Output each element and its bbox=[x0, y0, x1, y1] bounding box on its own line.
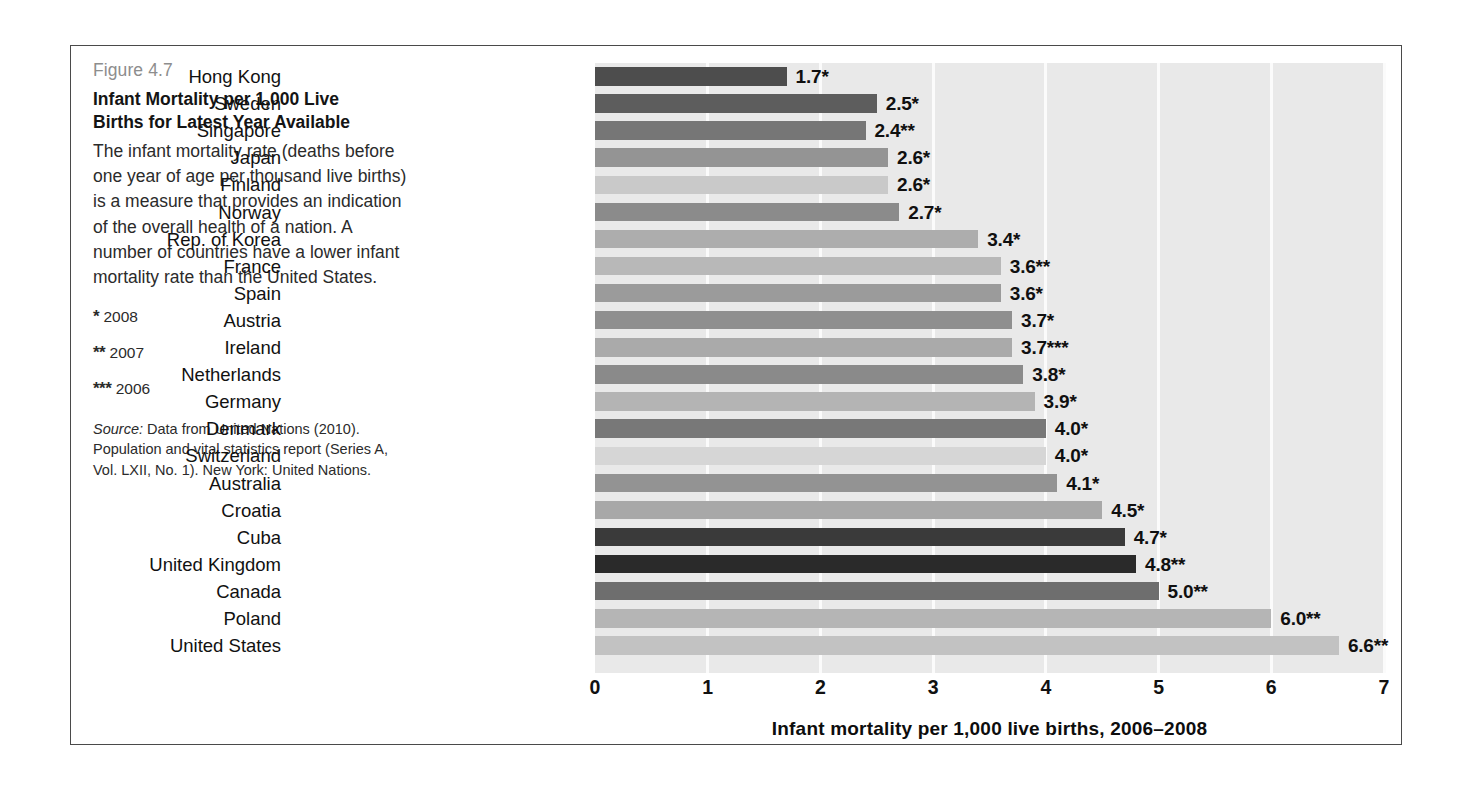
x-axis-title: Infant mortality per 1,000 live births, … bbox=[595, 718, 1384, 740]
bar-value-label: 1.7* bbox=[796, 63, 829, 90]
x-tick-label-0: 0 bbox=[590, 676, 601, 699]
bar-row[interactable]: Poland6.0** bbox=[423, 605, 1401, 632]
bar-row[interactable]: Sweden2.5* bbox=[423, 90, 1401, 117]
category-label: Spain bbox=[234, 280, 281, 307]
bar[interactable] bbox=[595, 203, 899, 221]
figure-frame: Figure 4.7 Infant Mortality per 1,000 Li… bbox=[70, 45, 1402, 745]
bar[interactable] bbox=[595, 257, 1001, 275]
bar[interactable] bbox=[595, 555, 1136, 573]
bar[interactable] bbox=[595, 392, 1035, 410]
bar-value-label: 4.5* bbox=[1111, 497, 1144, 524]
bar-row[interactable]: Croatia4.5* bbox=[423, 497, 1401, 524]
bar-value-label: 3.6** bbox=[1010, 253, 1050, 280]
bar-row[interactable]: Australia4.1* bbox=[423, 470, 1401, 497]
bar[interactable] bbox=[595, 501, 1102, 519]
bar-value-label: 5.0** bbox=[1168, 578, 1208, 605]
bar[interactable] bbox=[595, 636, 1339, 654]
bar-row[interactable]: Rep. of Korea3.4* bbox=[423, 226, 1401, 253]
bar-value-label: 4.0* bbox=[1055, 442, 1088, 469]
bar-value-label: 6.0** bbox=[1280, 605, 1320, 632]
bar-row[interactable]: Finland2.6* bbox=[423, 171, 1401, 198]
bar-value-label: 3.8* bbox=[1032, 361, 1065, 388]
bar-value-label: 4.8** bbox=[1145, 551, 1185, 578]
bar-row[interactable]: United Kingdom4.8** bbox=[423, 551, 1401, 578]
bar-row[interactable]: Norway2.7* bbox=[423, 199, 1401, 226]
bar[interactable] bbox=[595, 528, 1125, 546]
bar-row[interactable]: Cuba4.7* bbox=[423, 524, 1401, 551]
category-label: Sweden bbox=[214, 90, 281, 117]
category-label: Singapore bbox=[197, 117, 281, 144]
bar[interactable] bbox=[595, 311, 1012, 329]
category-label: Netherlands bbox=[181, 361, 281, 388]
category-label: United Kingdom bbox=[149, 551, 281, 578]
bar-row[interactable]: Ireland3.7*** bbox=[423, 334, 1401, 361]
bar-value-label: 4.1* bbox=[1066, 470, 1099, 497]
category-label: Rep. of Korea bbox=[167, 226, 281, 253]
bar[interactable] bbox=[595, 582, 1159, 600]
bar[interactable] bbox=[595, 609, 1271, 627]
category-label: United States bbox=[170, 632, 281, 659]
bar[interactable] bbox=[595, 94, 877, 112]
bar-value-label: 4.7* bbox=[1134, 524, 1167, 551]
bar-chart: Hong Kong1.7*Sweden2.5*Singapore2.4**Jap… bbox=[423, 46, 1401, 744]
bar-value-label: 2.5* bbox=[886, 90, 919, 117]
x-tick-label-1: 1 bbox=[702, 676, 713, 699]
bar[interactable] bbox=[595, 474, 1057, 492]
category-label: Australia bbox=[209, 470, 281, 497]
category-label: Switzerland bbox=[185, 442, 281, 469]
category-label: Hong Kong bbox=[188, 63, 281, 90]
bar-value-label: 2.7* bbox=[908, 199, 941, 226]
bar[interactable] bbox=[595, 176, 888, 194]
category-label: France bbox=[223, 253, 281, 280]
bar-row[interactable]: Japan2.6* bbox=[423, 144, 1401, 171]
bar[interactable] bbox=[595, 148, 888, 166]
bar[interactable] bbox=[595, 447, 1046, 465]
bar[interactable] bbox=[595, 365, 1023, 383]
footnote-marker-double-star: ** bbox=[93, 343, 105, 362]
bar-row[interactable]: United States6.6** bbox=[423, 632, 1401, 659]
bar-row[interactable]: Germany3.9* bbox=[423, 388, 1401, 415]
bar[interactable] bbox=[595, 338, 1012, 356]
bar-value-label: 2.4** bbox=[875, 117, 915, 144]
bar-value-label: 3.4* bbox=[987, 226, 1020, 253]
bar[interactable] bbox=[595, 419, 1046, 437]
bar-value-label: 3.9* bbox=[1044, 388, 1077, 415]
category-label: Cuba bbox=[237, 524, 281, 551]
bar-row[interactable]: Hong Kong1.7* bbox=[423, 63, 1401, 90]
bar-row[interactable]: Austria3.7* bbox=[423, 307, 1401, 334]
x-tick-label-6: 6 bbox=[1266, 676, 1277, 699]
bar[interactable] bbox=[595, 67, 787, 85]
bar[interactable] bbox=[595, 230, 978, 248]
bar[interactable] bbox=[595, 121, 866, 139]
bar-value-label: 2.6* bbox=[897, 171, 930, 198]
category-label: Germany bbox=[205, 388, 281, 415]
footnote-year-2008: 2008 bbox=[103, 308, 137, 325]
category-label: Ireland bbox=[224, 334, 281, 361]
x-tick-label-4: 4 bbox=[1040, 676, 1051, 699]
bar-value-label: 2.6* bbox=[897, 144, 930, 171]
footnote-year-2007: 2007 bbox=[110, 344, 144, 361]
category-label: Denmark bbox=[206, 415, 281, 442]
bar-value-label: 3.6* bbox=[1010, 280, 1043, 307]
category-label: Austria bbox=[223, 307, 281, 334]
bar-row[interactable]: Netherlands3.8* bbox=[423, 361, 1401, 388]
footnote-marker-triple-star: *** bbox=[93, 379, 111, 398]
bar-row[interactable]: Spain3.6* bbox=[423, 280, 1401, 307]
bar-row[interactable]: Switzerland4.0* bbox=[423, 442, 1401, 469]
source-label: Source: bbox=[93, 421, 143, 437]
footnote-year-2006: 2006 bbox=[116, 380, 150, 397]
bar-row[interactable]: Canada5.0** bbox=[423, 578, 1401, 605]
x-tick-label-2: 2 bbox=[815, 676, 826, 699]
bar-row[interactable]: Singapore2.4** bbox=[423, 117, 1401, 144]
category-label: Finland bbox=[220, 171, 281, 198]
bar[interactable] bbox=[595, 284, 1001, 302]
bar-row[interactable]: Denmark4.0* bbox=[423, 415, 1401, 442]
category-label: Canada bbox=[216, 578, 281, 605]
bar-rows: Hong Kong1.7*Sweden2.5*Singapore2.4**Jap… bbox=[423, 63, 1401, 663]
x-tick-label-7: 7 bbox=[1379, 676, 1390, 699]
footnote-marker-single-star: * bbox=[93, 307, 99, 326]
bar-row[interactable]: France3.6** bbox=[423, 253, 1401, 280]
category-label: Norway bbox=[218, 199, 281, 226]
bar-value-label: 3.7* bbox=[1021, 307, 1054, 334]
category-label: Poland bbox=[223, 605, 281, 632]
